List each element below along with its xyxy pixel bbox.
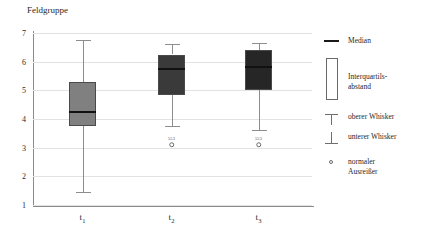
upper-whisker-cap (252, 43, 267, 44)
outlier-marker (256, 142, 262, 148)
legend-item: unterer Whisker (322, 132, 396, 146)
lower-whisker-cap (252, 130, 267, 131)
gridline (33, 205, 312, 206)
plot-area: 553553 (33, 33, 312, 205)
box-plot-group: 553 (33, 33, 312, 205)
x-axis-tick-label: t3 (256, 212, 262, 224)
legend-label: Interquartils- abstand (348, 72, 387, 91)
y-axis-tick-label: 2 (0, 172, 26, 181)
interquartile-box (245, 50, 272, 90)
y-axis-tick-label: 4 (0, 115, 26, 124)
x-axis-tick-label: t2 (169, 212, 175, 224)
upper-whisker-icon (322, 112, 348, 126)
box-plot-chart: Feldgruppe 553553 1234567 t1t2t3 MedianI… (0, 0, 428, 243)
chart-title: Feldgruppe (27, 5, 68, 15)
y-axis-tick-label: 6 (0, 57, 26, 66)
outlier-label: 553 (255, 136, 262, 141)
legend-item: oberer Whisker (322, 112, 394, 126)
upper-whisker-line (259, 43, 260, 50)
legend-label: Median (348, 36, 371, 46)
legend-label: oberer Whisker (348, 112, 394, 122)
median-line (245, 66, 272, 68)
legend-label: normaler Ausreißer (348, 157, 378, 176)
lower-whisker-icon (322, 132, 348, 146)
y-axis-tick-label: 7 (0, 29, 26, 38)
legend-item: Median (322, 36, 371, 46)
y-axis-tick-label: 1 (0, 201, 26, 210)
legend-label: unterer Whisker (348, 132, 396, 142)
lower-whisker-line (259, 90, 260, 130)
iqr-box-icon (322, 58, 348, 102)
y-axis-tick-label: 3 (0, 143, 26, 152)
legend-item: normaler Ausreißer (322, 157, 378, 176)
median-line-icon (322, 36, 348, 46)
outlier-circle-icon (322, 157, 348, 167)
x-axis-tick-label: t1 (80, 212, 86, 224)
x-axis-line (33, 206, 314, 207)
legend-item: Interquartils- abstand (322, 58, 387, 102)
y-axis-tick-label: 5 (0, 86, 26, 95)
